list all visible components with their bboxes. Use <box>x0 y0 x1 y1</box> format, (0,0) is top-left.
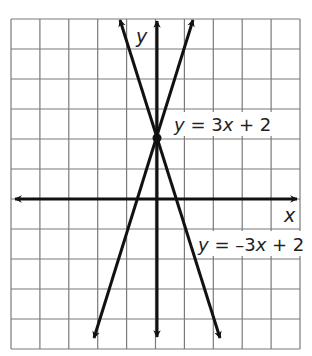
y-axis-label: y <box>135 25 148 47</box>
x-axis-label: x <box>283 204 296 226</box>
intersection-point <box>153 134 162 143</box>
line-y-neg3x-plus-2 <box>120 20 220 338</box>
line1-label: y = 3x + 2 <box>173 114 271 135</box>
line-y-3x-plus-2 <box>94 20 193 338</box>
coordinate-plane: y x y = 3x + 2 y = –3x + 2 <box>0 0 312 356</box>
line2-label: y = –3x + 2 <box>197 234 304 255</box>
